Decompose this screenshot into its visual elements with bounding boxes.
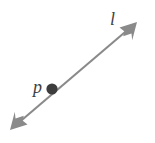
line-label-l: l: [110, 10, 115, 28]
point-label-p: p: [33, 78, 42, 96]
figure-canvas: [0, 0, 155, 143]
point-p-dot: [46, 83, 57, 94]
geometry-figure: l p: [0, 0, 155, 143]
